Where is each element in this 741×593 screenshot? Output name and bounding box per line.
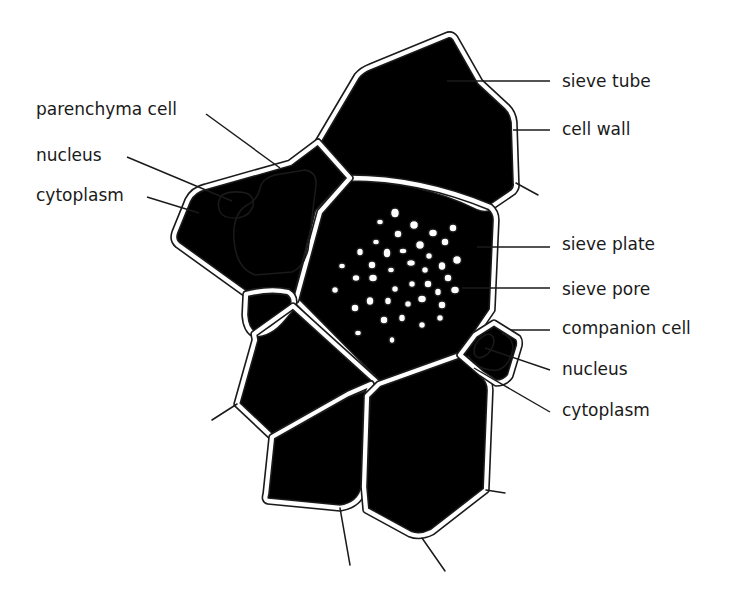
label-sieve-tube: sieve tube (562, 73, 651, 90)
label-sieve-plate: sieve plate (562, 236, 655, 253)
label-parenchyma-cell: parenchyma cell (36, 101, 177, 118)
cell-walls (174, 35, 519, 536)
label-cell-wall: cell wall (562, 121, 630, 138)
label-nucleus-left: nucleus (36, 147, 102, 164)
label-companion-cell: companion cell (562, 320, 691, 337)
label-nucleus-right: nucleus (562, 361, 628, 378)
label-sieve-pore: sieve pore (562, 281, 650, 298)
phloem-diagram: parenchyma cell nucleus cytoplasm sieve … (0, 0, 741, 593)
label-cytoplasm-left: cytoplasm (36, 187, 124, 204)
label-cytoplasm-right: cytoplasm (562, 402, 650, 419)
